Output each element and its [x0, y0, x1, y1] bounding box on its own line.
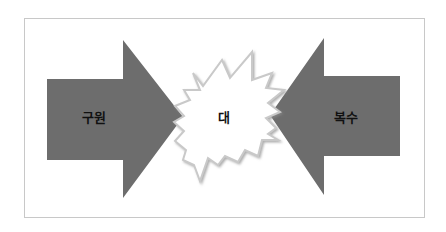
- right-arrow-label: 복수: [334, 107, 358, 126]
- left-arrow-label: 구원: [82, 107, 106, 126]
- diagram-canvas: 구원 대 복수: [0, 0, 446, 232]
- right-pointing-arrow-shape: [47, 40, 183, 198]
- center-burst-label: 대: [218, 107, 230, 126]
